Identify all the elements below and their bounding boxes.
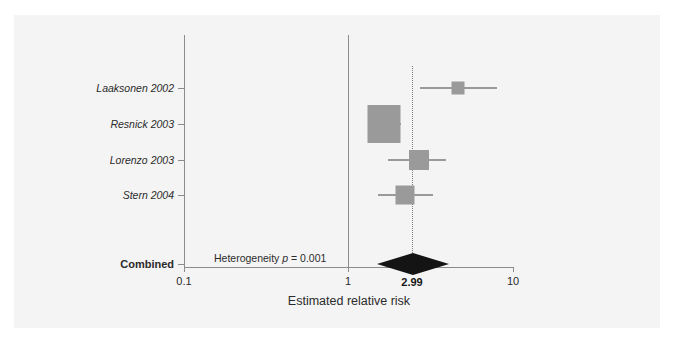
y-tick-stern-2004 — [178, 195, 184, 196]
x-axis-title: Estimated relative risk — [184, 294, 514, 308]
x-axis-line — [184, 267, 514, 268]
marker-box-lorenzo-2003 — [409, 150, 429, 170]
study-label-resnick-2003: Resnick 2003 — [110, 118, 174, 130]
marker-box-stern-2004 — [396, 186, 415, 205]
y-tick-resnick-2003 — [178, 124, 184, 125]
y-tick-laaksonen-2002 — [178, 88, 184, 89]
x-tick-label-10: 10 — [507, 275, 519, 287]
study-label-lorenzo-2003: Lorenzo 2003 — [110, 154, 174, 166]
y-axis-line — [184, 35, 185, 267]
heterogeneity-value: = 0.001 — [288, 252, 326, 264]
heterogeneity-annotation: Heterogeneity p = 0.001 — [214, 252, 326, 264]
y-tick-combined — [178, 264, 184, 265]
forest-plot-figure: Laaksonen 2002 Resnick 2003 Lorenzo 2003… — [0, 0, 674, 343]
heterogeneity-prefix: Heterogeneity — [214, 252, 282, 264]
x-tick-label-1: 1 — [345, 275, 351, 287]
x-tick-mark-10 — [513, 267, 514, 272]
x-tick-mark-0.1 — [184, 267, 185, 272]
pooled-estimate-label: 2.99 — [401, 276, 422, 288]
marker-box-laaksonen-2002 — [452, 82, 465, 95]
null-effect-line — [348, 35, 349, 267]
study-label-laaksonen-2002: Laaksonen 2002 — [96, 82, 174, 94]
x-tick-mark-1 — [348, 267, 349, 272]
study-label-stern-2004: Stern 2004 — [123, 189, 174, 201]
y-tick-lorenzo-2003 — [178, 160, 184, 161]
study-label-column: Laaksonen 2002 Resnick 2003 Lorenzo 2003… — [20, 0, 174, 343]
study-label-combined: Combined — [120, 258, 174, 270]
combined-diamond-marker — [376, 252, 450, 276]
x-tick-label-0.1: 0.1 — [176, 275, 191, 287]
marker-box-resnick-2003 — [368, 105, 401, 143]
